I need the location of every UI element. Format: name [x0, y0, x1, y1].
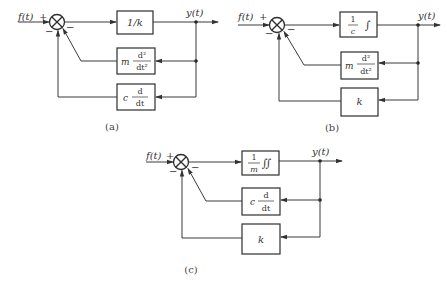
minus-sign-bottom: −: [45, 26, 53, 37]
diagram-a: f(t) + − − 1/k y(t) m d² dt²: [17, 7, 218, 132]
svg-text:dt²: dt²: [360, 67, 372, 76]
feedback-path-to-sum: [284, 32, 341, 66]
diagram-c: f(t) + − − 1 m ∬ y(t) c d dt: [145, 146, 342, 275]
minus-sign-bottom: −: [265, 28, 273, 39]
svg-text:d²: d²: [362, 54, 370, 63]
output-label: y(t): [417, 10, 436, 21]
caption: (b): [325, 122, 339, 133]
minus-sign-right: −: [66, 22, 74, 33]
svg-text:1: 1: [251, 153, 256, 162]
input-label: f(t): [237, 11, 254, 22]
svg-text:∫: ∫: [365, 19, 371, 32]
feedback-path-to-sum: [63, 29, 117, 62]
minus-sign-right: −: [287, 24, 295, 35]
svg-text:dt: dt: [262, 204, 271, 213]
svg-text:dt: dt: [136, 99, 145, 108]
svg-text:d: d: [263, 191, 268, 200]
feedback-block-spring: k: [242, 224, 280, 254]
svg-text:c: c: [250, 197, 255, 207]
forward-block: 1 c ∫: [340, 12, 377, 37]
feedback-path-to-sum: [188, 169, 242, 202]
caption: (a): [105, 121, 119, 132]
input-sign: +: [39, 11, 47, 22]
forward-block: 1 m ∬: [242, 151, 279, 175]
feedback-block-mass: m d² dt²: [341, 52, 378, 79]
svg-text:k: k: [258, 234, 264, 245]
svg-text:d: d: [137, 87, 142, 96]
output-label: y(t): [311, 146, 330, 157]
feedback-block-damping: c d dt: [117, 84, 155, 110]
svg-text:k: k: [356, 96, 362, 107]
svg-text:d²: d²: [138, 51, 146, 60]
svg-text:m: m: [345, 61, 354, 71]
minus-sign-right: −: [191, 162, 199, 173]
svg-text:∬: ∬: [262, 157, 271, 170]
svg-text:1: 1: [350, 15, 355, 24]
feedback-block-mass: m d² dt²: [117, 48, 155, 74]
feedback-path-to-sum: [279, 34, 341, 102]
svg-text:c: c: [123, 93, 128, 103]
feedback-path-to-sum: [182, 171, 242, 239]
svg-text:m: m: [250, 165, 258, 174]
svg-text:c: c: [351, 27, 356, 36]
feedback-block-damping: c d dt: [242, 188, 280, 215]
input-label: f(t): [17, 11, 34, 22]
feedback-block-spring: k: [341, 88, 378, 116]
diagram-b: f(t) + − − 1 c ∫ y(t) m d² dt²: [237, 10, 440, 133]
input-label: f(t): [145, 150, 162, 161]
output-label: y(t): [185, 7, 204, 18]
svg-text:1/k: 1/k: [127, 17, 143, 28]
feedback-path-to-sum: [58, 31, 117, 98]
minus-sign-bottom: −: [169, 166, 177, 177]
caption: (c): [184, 264, 198, 275]
block-diagram-figure: f(t) + − − 1/k y(t) m d² dt²: [0, 0, 447, 282]
svg-text:m: m: [121, 57, 130, 67]
forward-block: 1/k: [117, 11, 153, 34]
input-sign: +: [166, 150, 174, 161]
svg-text:dt²: dt²: [136, 63, 148, 72]
input-sign: +: [259, 11, 267, 22]
